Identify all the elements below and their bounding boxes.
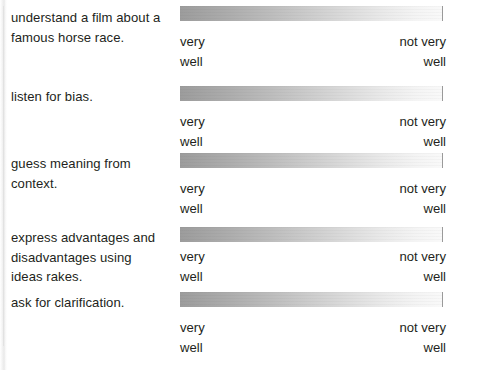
anchor-line: well [399,338,446,358]
anchor-line: well [180,199,205,219]
anchor-line: well [399,199,446,219]
anchor-line: not very [399,179,446,199]
anchor-line: very [180,179,205,199]
anchor-line: well [180,338,205,358]
prompt-line: express advantages and [11,228,176,248]
anchor-line: very [180,112,205,132]
anchor-very-well: very well [180,112,205,151]
prompt-line: disadvantages using [11,248,176,268]
anchor-line: not very [399,247,446,267]
anchor-line: very [180,32,205,52]
anchor-line: well [180,52,205,72]
row-prompt: listen for bias. [11,87,176,107]
prompt-line: context. [11,174,176,194]
rating-scale-bar[interactable] [180,6,443,21]
anchor-not-very-well: not very well [399,179,446,218]
row-prompt: understand a film about a famous horse r… [11,8,176,47]
anchor-line: very [180,247,205,267]
row-prompt: express advantages and disadvantages usi… [11,228,176,287]
anchor-very-well: very well [180,318,205,357]
prompt-line: ideas rakes. [11,267,176,287]
anchor-line: well [399,267,446,287]
prompt-line: understand a film about a [11,8,176,28]
anchor-line: very [180,318,205,338]
anchor-very-well: very well [180,179,205,218]
prompt-line: guess meaning from [11,154,176,174]
anchor-line: well [399,52,446,72]
anchor-very-well: very well [180,247,205,286]
anchor-not-very-well: not very well [399,318,446,357]
worksheet-page: understand a film about a famous horse r… [0,0,484,370]
anchor-not-very-well: not very well [399,247,446,286]
rating-scale-bar[interactable] [180,86,443,101]
anchor-line: not very [399,112,446,132]
anchor-line: not very [399,318,446,338]
anchor-line: well [180,267,205,287]
row-prompt: guess meaning from context. [11,154,176,193]
anchor-line: not very [399,32,446,52]
anchor-line: well [399,132,446,152]
anchor-not-very-well: not very well [399,32,446,71]
prompt-line: listen for bias. [11,87,176,107]
anchor-very-well: very well [180,32,205,71]
rating-scale-bar[interactable] [180,227,443,242]
rating-scale-bar[interactable] [180,153,443,168]
anchor-not-very-well: not very well [399,112,446,151]
prompt-line: famous horse race. [11,28,176,48]
row-prompt: ask for clarification. [11,293,176,313]
rating-scale-bar[interactable] [180,292,443,307]
prompt-line: ask for clarification. [11,293,176,313]
anchor-line: well [180,132,205,152]
